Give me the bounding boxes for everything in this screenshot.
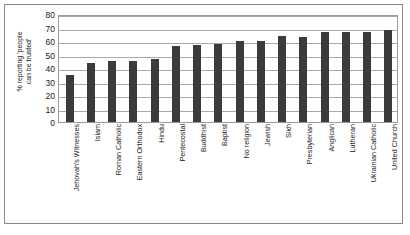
y-tick-label: 40 [31,65,55,73]
bar [236,41,244,122]
x-tick-label: Baptist [221,124,229,146]
x-tick-label: Jehovah's Witnesses [73,124,81,191]
x-tick-label: Jewish [264,124,272,146]
bar [384,30,392,122]
y-tick-label: 20 [31,92,55,100]
y-tick-label: 80 [31,11,55,19]
bar [321,32,329,122]
x-label-slot: Sikh [276,124,287,219]
bar [151,59,159,122]
x-label-slot: United Church [382,124,393,219]
y-tick-label: 10 [31,106,55,114]
x-label-slot: Lutheran [339,124,350,219]
y-axis-title: % reporting 'people can be trusted' [16,6,33,118]
bar [342,32,350,122]
bar [129,61,137,122]
plot-area [58,15,398,123]
bar [257,41,265,122]
x-label-slot: Buddhist [191,124,202,219]
x-tick-label: Pentecostal [179,124,187,162]
x-label-slot: Jewish [254,124,265,219]
x-label-slot: Pentecostal [169,124,180,219]
y-tick-label: 60 [31,38,55,46]
x-label-slot: Jehovah's Witnesses [63,124,74,219]
bar [66,75,74,122]
x-tick-label: Eastern Orthodox [136,124,144,180]
bar [278,36,286,122]
x-tick-label: Roman Catholic [115,124,123,175]
x-label-slot: Presbyterian [297,124,308,219]
x-tick-label: Ukrainian Catholic [370,124,378,182]
x-axis-category-labels: Jehovah's WitnessesIslamRoman CatholicEa… [58,124,398,219]
y-tick-label: 70 [31,25,55,33]
x-label-slot: No religion [233,124,244,219]
x-tick-label: Islam [94,124,102,141]
y-tick-label: 50 [31,52,55,60]
x-tick-label: Presbyterian [306,124,314,164]
y-axis-title-line1: % reporting 'people [16,6,25,118]
bar [299,37,307,122]
bar [87,63,95,122]
x-tick-label: United Church [391,124,399,170]
bar [363,32,371,122]
x-tick-label: Hindu [158,124,166,143]
x-tick-label: No religion [243,124,251,158]
y-axis-tick-labels: 80706050403020100 [31,15,55,127]
bar [193,45,201,122]
x-label-slot: Roman Catholic [106,124,117,219]
bar [214,44,222,122]
x-tick-label: Sikh [285,124,293,138]
x-tick-label: Lutheran [349,124,357,152]
bar [172,46,180,122]
x-label-slot: Ukrainian Catholic [361,124,372,219]
x-label-slot: Baptist [212,124,223,219]
x-tick-label: Anglican [328,124,336,152]
x-label-slot: Eastern Orthodox [127,124,138,219]
x-label-slot: Hindu [148,124,159,219]
y-tick-label: 30 [31,79,55,87]
y-tick-label: 0 [31,119,55,127]
bar [108,61,116,122]
chart-frame: % reporting 'people can be trusted' 8070… [4,4,403,224]
x-label-slot: Anglican [318,124,329,219]
bar-series [59,16,397,122]
x-tick-label: Buddhist [200,124,208,152]
x-label-slot: Islam [84,124,95,219]
